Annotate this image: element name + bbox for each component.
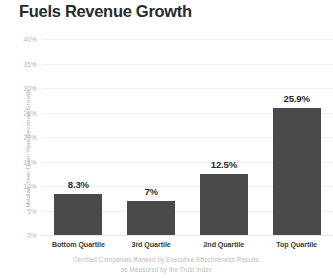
bar[interactable] (127, 201, 175, 235)
plot-area: 0%5%10%15%20%25%30%35%40%8.3%7%12.5%25.9… (42, 39, 333, 235)
bar-group[interactable]: 12.5% (200, 39, 248, 235)
bar[interactable] (200, 174, 248, 235)
footnote-line-2: as Measured by the Trust Index (0, 265, 333, 275)
y-tick-label: 35% (24, 60, 37, 67)
bar-group[interactable]: 7% (127, 39, 175, 235)
bar-group[interactable]: 25.9% (273, 39, 321, 235)
y-tick-label: 25% (24, 109, 37, 116)
chart-container: Fuels Revenue Growth Median Year-Over-Ye… (0, 0, 333, 278)
bar-value-label: 12.5% (211, 159, 237, 170)
chart-footnote: Certified Companies Ranked by Executive … (0, 255, 333, 274)
y-tick-label: 5% (27, 207, 37, 214)
y-tick-label: 10% (24, 183, 37, 190)
x-tick-label: 2nd Quartile (188, 241, 261, 249)
bar[interactable] (273, 108, 321, 235)
y-axis-title: Median Year-Over-Year Revenue Growth (24, 69, 31, 229)
x-tick-label: 3rd Quartile (115, 241, 188, 249)
y-tick-label: 40% (24, 36, 37, 43)
y-tick-label: 20% (24, 134, 37, 141)
bar-value-label: 25.9% (284, 93, 310, 104)
gridline: 0% (42, 235, 333, 236)
bar[interactable] (54, 194, 102, 235)
x-tick-label: Top Quartile (260, 241, 333, 249)
y-tick-label: 30% (24, 85, 37, 92)
footnote-line-1: Certified Companies Ranked by Executive … (0, 255, 333, 265)
bar-value-label: 8.3% (68, 179, 89, 190)
chart-title: Fuels Revenue Growth (19, 2, 192, 21)
bar-value-label: 7% (144, 186, 157, 197)
x-tick-label: Bottom Quartile (42, 241, 115, 249)
y-tick-label: 0% (27, 232, 37, 239)
bar-group[interactable]: 8.3% (54, 39, 102, 235)
y-tick-label: 15% (24, 158, 37, 165)
